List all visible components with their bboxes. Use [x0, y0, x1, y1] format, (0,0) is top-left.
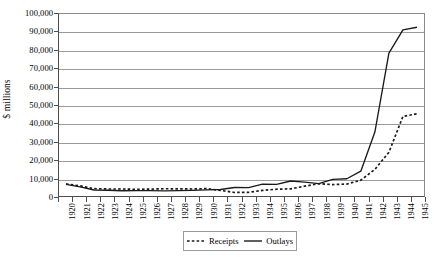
x-axis-tick-label: 1935 [280, 203, 289, 220]
y-axis-tick-label: 30,000 [29, 137, 53, 147]
x-axis-tick-label: 1923 [111, 203, 120, 220]
x-axis-tick-label: 1924 [125, 203, 134, 220]
x-axis-tick [242, 197, 243, 202]
series-line-outlays [66, 27, 417, 191]
y-axis-tick [54, 142, 58, 143]
y-axis-tick [54, 68, 58, 69]
y-axis-tick-label: 80,000 [29, 45, 53, 55]
x-axis-tick-label: 1931 [224, 203, 233, 220]
y-axis-tick [54, 31, 58, 32]
y-axis-tick [54, 87, 58, 88]
y-axis-tick [54, 50, 58, 51]
x-axis-tick [213, 197, 214, 202]
chart-legend: Receipts Outlays [183, 231, 297, 251]
dashed-line-icon [187, 237, 205, 245]
x-axis-tick-label: 1927 [167, 203, 176, 220]
x-axis-tick [298, 197, 299, 202]
y-axis-tick-label: 70,000 [29, 63, 53, 73]
legend-label-receipts: Receipts [209, 236, 239, 246]
x-axis-tick [284, 197, 285, 202]
legend-item-receipts: Receipts [187, 236, 239, 246]
x-axis-tick-label: 1942 [379, 203, 388, 220]
x-axis-tick [354, 197, 355, 202]
x-axis-tick [369, 197, 370, 202]
x-axis-tick [129, 197, 130, 202]
x-axis-tick-label: 1932 [238, 203, 247, 220]
x-axis-tick-label: 1929 [195, 203, 204, 220]
x-axis-ticks [58, 197, 425, 202]
x-axis-tick [411, 197, 412, 202]
x-axis-tick-label: 1928 [181, 203, 190, 220]
x-axis-tick-label: 1938 [323, 203, 332, 220]
x-axis-tick [72, 197, 73, 202]
x-axis-tick [397, 197, 398, 202]
x-axis-tick-label: 1943 [393, 203, 402, 220]
x-axis-tick [114, 197, 115, 202]
y-axis-tick-label: 90,000 [29, 26, 53, 36]
x-axis-tick-label: 1922 [97, 203, 106, 220]
y-axis-tick [54, 179, 58, 180]
x-axis-tick-label: 1940 [351, 203, 360, 220]
y-axis-tick-label: 10,000 [29, 174, 53, 184]
series-layer [59, 14, 424, 196]
series-line-receipts [66, 114, 417, 193]
x-axis-tick-label: 1921 [83, 203, 92, 220]
x-axis-tick-label: 1936 [294, 203, 303, 220]
x-axis-tick-label: 1941 [365, 203, 374, 220]
x-axis-tick-label: 1926 [153, 203, 162, 220]
x-axis-tick [100, 197, 101, 202]
y-axis-tick [54, 160, 58, 161]
x-axis-tick-label: 1937 [308, 203, 317, 220]
x-axis-tick [185, 197, 186, 202]
x-axis-tick-label: 1939 [337, 203, 346, 220]
x-axis-tick-label: 1925 [139, 203, 148, 220]
solid-line-icon [244, 237, 262, 245]
x-axis-tick [256, 197, 257, 202]
x-axis-tick [270, 197, 271, 202]
y-axis-tick-label: 60,000 [29, 82, 53, 92]
y-axis-tick [54, 123, 58, 124]
y-axis-tick [54, 13, 58, 14]
y-axis-tick-label: 100,000 [25, 8, 53, 18]
x-axis-tick [86, 197, 87, 202]
x-axis-tick [326, 197, 327, 202]
y-axis-tick-label: 50,000 [29, 100, 53, 110]
x-axis-tick-labels: 1920192119221923192419251926192719281929… [58, 203, 425, 229]
legend-label-outlays: Outlays [266, 236, 293, 246]
y-axis-tick-label: 0 [49, 192, 53, 202]
x-axis-tick [199, 197, 200, 202]
x-axis-tick [383, 197, 384, 202]
y-axis-tick-label: 40,000 [29, 118, 53, 128]
x-axis-tick-label: 1930 [210, 203, 219, 220]
x-axis-tick [312, 197, 313, 202]
x-axis-tick [143, 197, 144, 202]
x-axis-tick-label: 1920 [68, 203, 77, 220]
y-axis-tick [54, 197, 58, 198]
x-axis-tick-label: 1933 [252, 203, 261, 220]
plot-area [58, 13, 425, 197]
x-axis-tick [227, 197, 228, 202]
x-axis-tick [58, 197, 59, 202]
x-axis-tick [157, 197, 158, 202]
x-axis-tick-label: 1945 [421, 203, 430, 220]
y-axis-title-text: $ millions [2, 79, 12, 118]
chart-figure: $ millions 010,00020,00030,00040,00050,0… [0, 0, 439, 260]
legend-item-outlays: Outlays [244, 236, 293, 246]
x-axis-tick-label: 1944 [407, 203, 416, 220]
x-axis-tick-label: 1934 [266, 203, 275, 220]
x-axis-tick [340, 197, 341, 202]
x-axis-tick [425, 197, 426, 202]
y-axis-tick [54, 105, 58, 106]
y-axis-tick-labels: 010,00020,00030,00040,00050,00060,00070,… [12, 0, 56, 260]
y-axis-tick-label: 20,000 [29, 155, 53, 165]
x-axis-tick [171, 197, 172, 202]
